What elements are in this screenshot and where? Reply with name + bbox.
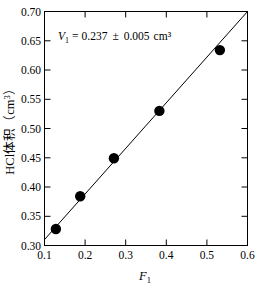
x-tick-label-2: 0.3 (119, 249, 134, 261)
y-tick-label-4: 0.50 (21, 123, 41, 135)
x-tick-label-1: 0.2 (78, 249, 93, 261)
y-axis-title-main: HCl体积（cm (3, 99, 17, 174)
annotation-equals: = (72, 30, 79, 42)
annotation-plusminus: ± (112, 30, 118, 42)
data-point-4 (215, 45, 225, 55)
y-tick-label-2: 0.40 (21, 181, 41, 193)
x-axis-title-subscript: 1 (147, 275, 151, 285)
chart-figure: 0.30 0.35 0.40 0.45 0.50 0.55 0.60 0.65 … (0, 0, 266, 288)
y-tick-label-6: 0.60 (21, 64, 41, 76)
y-tick-label-7: 0.65 (21, 35, 41, 47)
x-axis-title: F1 (138, 269, 151, 285)
data-points (51, 45, 225, 234)
x-tick-label-4: 0.5 (200, 249, 215, 261)
y-tick-label-1: 0.35 (21, 210, 41, 222)
annotation-unit: cm³ (154, 30, 172, 42)
intercept-annotation: V1=0.237±0.005cm³ (58, 30, 172, 45)
x-tick-label-3: 0.4 (159, 249, 174, 261)
y-tick-label-3: 0.45 (21, 152, 41, 164)
y-axis-ticks (45, 12, 51, 246)
x-axis-ticks (45, 240, 248, 246)
right-axis-ticks (242, 41, 248, 217)
top-axis-ticks (85, 12, 207, 18)
y-tick-label-8: 0.70 (21, 6, 41, 18)
y-axis-tick-labels: 0.30 0.35 0.40 0.45 0.50 0.55 0.60 0.65 … (21, 6, 41, 252)
data-point-2 (109, 153, 119, 163)
y-axis-title: HCl体积（cm3） (2, 82, 17, 174)
y-axis-title-close: ） (3, 82, 17, 95)
y-tick-label-5: 0.55 (21, 93, 41, 105)
annotation-value: 0.237 (82, 30, 108, 42)
x-tick-label-5: 0.6 (240, 249, 255, 261)
data-point-0 (51, 224, 61, 234)
annotation-subscript: 1 (65, 36, 69, 45)
annotation-uncertainty: 0.005 (124, 30, 150, 42)
data-point-1 (75, 191, 85, 201)
data-point-3 (154, 106, 164, 116)
x-tick-label-0: 0.1 (37, 249, 52, 261)
chart-canvas: 0.30 0.35 0.40 0.45 0.50 0.55 0.60 0.65 … (0, 0, 266, 288)
x-axis-tick-labels: 0.1 0.2 0.3 0.4 0.5 0.6 (37, 249, 255, 261)
fit-line (45, 12, 248, 240)
